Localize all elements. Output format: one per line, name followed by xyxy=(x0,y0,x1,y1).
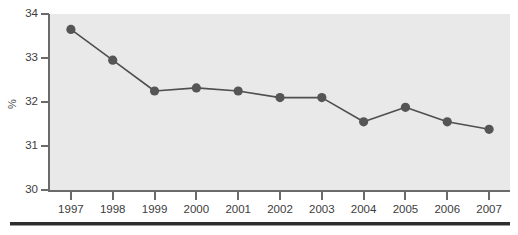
x-axis-tick-label: 2000 xyxy=(174,203,218,216)
x-axis-tick-label: 2001 xyxy=(216,203,260,216)
y-axis-tick-label: 32 xyxy=(12,96,38,108)
x-axis-tick-label: 2004 xyxy=(342,203,386,216)
x-axis-tick-label: 1998 xyxy=(91,203,135,216)
x-axis-tick xyxy=(279,192,281,200)
y-axis-tick-label: 34 xyxy=(12,8,38,20)
y-axis-tick xyxy=(41,13,49,15)
x-axis-tick-label: 1997 xyxy=(49,203,93,216)
chart-figure: % 3433323130 199719981999200020012002200… xyxy=(0,0,518,235)
y-axis-tick xyxy=(41,145,49,147)
y-axis-tick xyxy=(41,57,49,59)
y-axis-tick-label-text: 34 xyxy=(16,8,38,19)
x-axis-tick xyxy=(488,192,490,200)
x-axis-tick-label: 2007 xyxy=(467,203,511,216)
bottom-divider-rule-shadow xyxy=(10,225,510,226)
y-axis-tick xyxy=(41,189,49,191)
x-axis-tick xyxy=(237,192,239,200)
plot-area xyxy=(50,14,510,190)
x-axis-tick xyxy=(112,192,114,200)
x-axis-tick xyxy=(195,192,197,200)
y-axis-tick-label-text: 33 xyxy=(16,52,38,63)
x-axis-tick xyxy=(363,192,365,200)
x-axis-tick xyxy=(154,192,156,200)
y-axis-tick-label: 30 xyxy=(12,184,38,196)
x-axis-tick-label: 2006 xyxy=(425,203,469,216)
x-axis-tick-label: 1999 xyxy=(133,203,177,216)
y-axis-tick-label-text: 30 xyxy=(16,184,38,195)
y-axis-tick xyxy=(41,101,49,103)
x-axis-tick-label: 2005 xyxy=(383,203,427,216)
x-axis-tick xyxy=(321,192,323,200)
x-axis-tick xyxy=(446,192,448,200)
x-axis-tick-label: 2002 xyxy=(258,203,302,216)
y-axis-tick-label: 31 xyxy=(12,140,38,152)
x-axis-tick xyxy=(404,192,406,200)
y-axis-tick-label: 33 xyxy=(12,52,38,64)
y-axis-tick-label-text: 32 xyxy=(16,96,38,107)
y-axis-tick-label-text: 31 xyxy=(16,140,38,151)
x-axis-tick-label: 2003 xyxy=(300,203,344,216)
x-axis-tick xyxy=(70,192,72,200)
